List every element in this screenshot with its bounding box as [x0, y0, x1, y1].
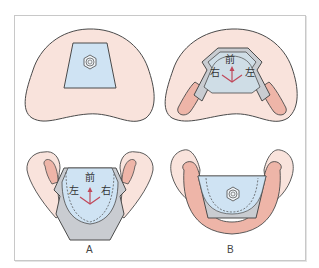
label-front: 前: [85, 171, 95, 183]
panel-label-a: A: [86, 244, 93, 255]
expansion-screw-icon: [84, 55, 96, 69]
panel-label-b: B: [227, 244, 234, 255]
panel-a-top: [25, 29, 154, 121]
panel-b-bottom: B: [171, 150, 294, 255]
expansion-screw-icon: [227, 187, 239, 201]
label-front: 前: [225, 53, 235, 65]
panel-b-top: 前 右 左: [165, 29, 297, 121]
label-left: 左: [245, 66, 255, 78]
label-right: 右: [210, 66, 220, 78]
label-right: 右: [101, 184, 111, 196]
diagram: 前 右 左 前 左 右 A: [0, 0, 319, 268]
label-left: 左: [69, 184, 79, 196]
panel-a-bottom: 前 左 右 A: [27, 152, 153, 255]
